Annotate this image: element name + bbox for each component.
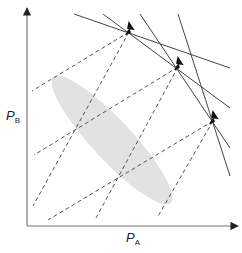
solid-line xyxy=(74,14,230,68)
y-axis-label-subscript: B xyxy=(15,116,20,125)
point-dot xyxy=(211,119,215,123)
solid-line xyxy=(178,14,230,176)
x-axis-label: PA xyxy=(126,230,140,247)
point-dot xyxy=(127,30,131,34)
ellipse-shape xyxy=(39,63,186,216)
point-dot xyxy=(176,65,180,69)
y-axis-label-text: P xyxy=(6,108,15,123)
point-marker-p2 xyxy=(175,58,182,70)
dashed-line xyxy=(32,32,129,91)
solid-line xyxy=(140,14,230,148)
x-axis-label-text: P xyxy=(126,230,135,245)
point-marker-p1 xyxy=(126,23,133,35)
diagram-canvas xyxy=(0,0,242,253)
feasible-region-ellipse xyxy=(39,63,186,216)
y-axis-label: PB xyxy=(6,108,20,125)
x-axis-label-subscript: A xyxy=(135,238,140,247)
